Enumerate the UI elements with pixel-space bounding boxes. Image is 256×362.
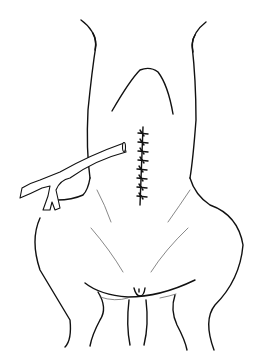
muscle-lines <box>91 190 190 300</box>
catheter-tube <box>20 143 126 211</box>
right-flank-outline <box>190 178 243 350</box>
surgical-drawing <box>0 0 256 362</box>
ribcage-arc <box>112 68 173 114</box>
left-torso-outline <box>81 20 96 178</box>
illustration <box>0 0 256 362</box>
pelvis-line <box>85 280 195 297</box>
tail <box>128 300 147 345</box>
